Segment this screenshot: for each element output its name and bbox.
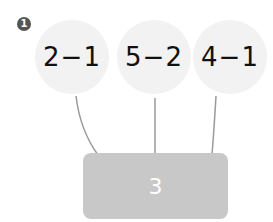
problem-number-badge: 1	[17, 17, 31, 31]
expression-circle-2[interactable]: 5−2	[117, 20, 191, 94]
connector-line-right	[212, 96, 216, 155]
connector-line-left	[76, 96, 98, 155]
expression-circle-3[interactable]: 4−1	[193, 20, 267, 94]
expression-text: 4−1	[201, 42, 259, 72]
answer-value: 3	[149, 174, 163, 199]
expression-text: 2−1	[43, 42, 101, 72]
answer-box[interactable]: 3	[83, 153, 228, 219]
expression-text: 5−2	[125, 42, 183, 72]
expression-circle-1[interactable]: 2−1	[35, 20, 109, 94]
